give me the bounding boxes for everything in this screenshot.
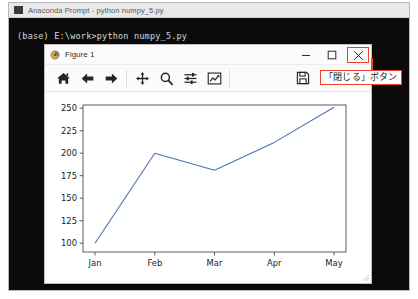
svg-text:250: 250	[61, 103, 77, 113]
figure-titlebar[interactable]: Figure 1	[45, 45, 371, 65]
window-controls	[293, 45, 371, 65]
configure-subplots-button[interactable]	[178, 67, 202, 90]
forward-button[interactable]	[99, 67, 123, 90]
pan-button[interactable]	[130, 67, 154, 90]
svg-text:May: May	[325, 258, 342, 268]
svg-text:225: 225	[61, 126, 77, 136]
forward-arrow-icon	[104, 71, 119, 86]
maximize-button[interactable]	[319, 45, 345, 65]
console-titlebar[interactable]: Anaconda Prompt - python numpy_5.py	[9, 3, 409, 18]
console-prompt-line: (base) E:\work>python numpy_5.py	[17, 31, 187, 41]
matplotlib-icon	[50, 50, 60, 60]
edit-axis-curve-icon	[207, 71, 222, 86]
pan-move-icon	[135, 71, 150, 86]
toolbar-separator	[126, 70, 127, 87]
home-icon	[56, 71, 71, 86]
line-chart: 250 225 200 175 150 125 100	[45, 92, 371, 283]
edit-axis-button[interactable]	[202, 67, 226, 90]
configure-subplots-icon	[183, 71, 198, 86]
figure-title: Figure 1	[65, 50, 94, 59]
terminal-icon	[14, 6, 23, 14]
minimize-icon	[301, 50, 311, 60]
resize-grip-icon[interactable]	[361, 273, 370, 282]
toolbar-separator-2	[229, 70, 230, 87]
home-button[interactable]	[51, 67, 75, 90]
screenshot-root: Anaconda Prompt - python numpy_5.py (bas…	[0, 0, 418, 299]
minimize-button[interactable]	[293, 45, 319, 65]
save-floppy-icon	[296, 71, 310, 85]
console-title: Anaconda Prompt - python numpy_5.py	[28, 6, 164, 15]
svg-text:175: 175	[61, 171, 77, 181]
maximize-icon	[327, 50, 337, 60]
close-icon	[353, 50, 364, 61]
svg-text:Apr: Apr	[267, 258, 282, 268]
svg-text:200: 200	[61, 148, 77, 158]
svg-text:100: 100	[61, 238, 77, 248]
figure-canvas[interactable]: 250 225 200 175 150 125 100	[45, 92, 371, 283]
zoom-magnifier-icon	[159, 71, 174, 86]
back-button[interactable]	[75, 67, 99, 90]
back-arrow-icon	[80, 71, 95, 86]
svg-text:Mar: Mar	[207, 258, 223, 268]
svg-text:Jan: Jan	[88, 258, 102, 268]
svg-text:150: 150	[61, 193, 77, 203]
close-button[interactable]	[345, 45, 371, 65]
svg-text:125: 125	[61, 216, 77, 226]
save-button[interactable]	[291, 67, 315, 90]
zoom-button[interactable]	[154, 67, 178, 90]
svg-text:Feb: Feb	[147, 258, 162, 268]
annotation-close-button-callout: 「閉じる」ボタン	[320, 70, 402, 85]
